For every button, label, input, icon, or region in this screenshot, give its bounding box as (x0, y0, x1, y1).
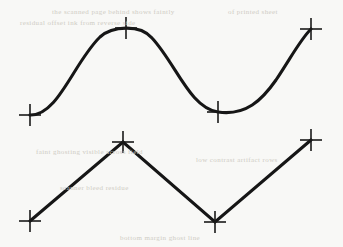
curve-marker-trough (207, 101, 229, 123)
smooth-curve-path (30, 28, 311, 115)
curve-marker-peak (115, 17, 137, 39)
polyline-path (30, 140, 311, 222)
figure-container: the scanned page behind shows faintly re… (0, 0, 343, 247)
series-piecewise-linear-polyline (19, 129, 322, 233)
series-smooth-spline-curve (19, 17, 322, 126)
chart-svg (0, 0, 343, 247)
curve-marker-start-low-left (19, 104, 41, 126)
